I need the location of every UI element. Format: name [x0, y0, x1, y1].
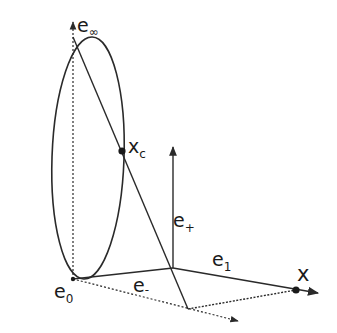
e-minus-axis — [73, 268, 173, 279]
label-e-plus: e+ — [173, 209, 195, 235]
dotted-base-axis — [73, 279, 238, 321]
point-x — [292, 286, 299, 293]
label-e-minus: e- — [133, 274, 149, 297]
label-x-c: xc — [128, 135, 146, 161]
label-e-one: e1 — [212, 248, 231, 274]
point-x-c — [118, 147, 125, 154]
label-e-zero: e0 — [54, 280, 73, 306]
dotted-projection-to-x — [188, 290, 296, 309]
label-e-infinity: e∞ — [77, 14, 99, 39]
label-x: x — [297, 262, 309, 286]
point-e-zero — [71, 277, 75, 281]
conformal-model-diagram: e∞ xc e+ e1 e- e0 x — [0, 0, 337, 333]
